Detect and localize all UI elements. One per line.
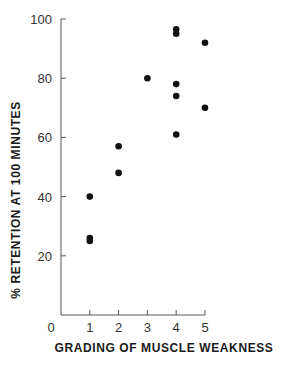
x-axis-title: GRADING OF MUSCLE WEAKNESS	[40, 341, 288, 355]
y-tick-label: 100	[30, 12, 52, 27]
data-point	[173, 81, 180, 88]
data-points	[87, 26, 209, 244]
data-point	[173, 31, 180, 38]
x-tick-label: 1	[86, 320, 93, 335]
x-tick-label: 0	[47, 320, 54, 335]
data-point	[144, 75, 151, 82]
y-tick-label: 80	[38, 71, 52, 86]
y-axis-title-text: % RETENTION AT 100 MINUTES	[9, 101, 23, 299]
axes	[61, 19, 205, 315]
x-tick-label: 5	[201, 320, 208, 335]
y-tick-label: 20	[38, 249, 52, 264]
y-tick-label: 40	[38, 190, 52, 205]
y-axis-title: % RETENTION AT 100 MINUTES	[4, 80, 28, 320]
data-point	[173, 93, 180, 100]
x-tick-label: 3	[144, 320, 151, 335]
x-tick-label: 4	[173, 320, 180, 335]
data-point	[87, 193, 94, 200]
data-point	[202, 39, 209, 46]
data-point	[202, 105, 209, 112]
data-point	[173, 131, 180, 138]
data-point	[115, 143, 122, 150]
scatter-plot: 20406080100012345	[0, 0, 288, 368]
data-point	[87, 238, 94, 245]
y-tick-label: 60	[38, 130, 52, 145]
data-point	[115, 170, 122, 177]
x-tick-label: 2	[115, 320, 122, 335]
